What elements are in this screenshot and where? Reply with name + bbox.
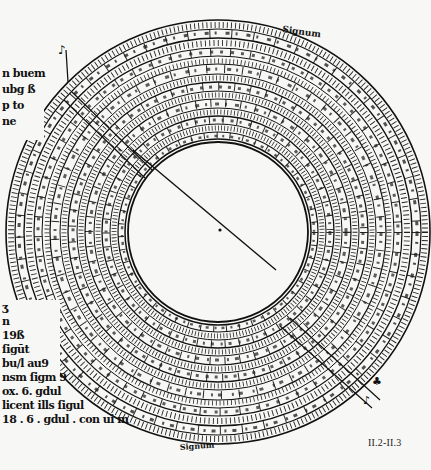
center-pivot [218, 228, 221, 231]
margin-line: licent ills ſigul [2, 400, 129, 411]
margin-line: bu/l au9 [2, 358, 129, 369]
margin-line: ne [2, 116, 45, 127]
margin-line: 18 . 6 . gdul . con ui m [2, 414, 129, 425]
margin-line: nsm ſigm 9 [2, 372, 129, 383]
svg-text:♣: ♣ [372, 375, 382, 388]
margin-line: p to [2, 100, 45, 111]
margin-line: ubg ß [2, 84, 45, 95]
svg-text:♪: ♪ [363, 394, 370, 407]
margin-line: n [2, 316, 129, 327]
document-page: ♪ ♣ ♪ Signum Signum n buem ubg ß p to ne… [0, 0, 431, 470]
margin-line: ſigūt [2, 344, 129, 355]
margin-line: ʒ [2, 302, 129, 313]
figure-caption: II.2-II.3 [368, 437, 401, 448]
margin-line: 19ß [2, 330, 129, 341]
margin-line: n buem [2, 68, 45, 79]
svg-text:♪: ♪ [58, 43, 66, 57]
svg-text:Signum: Signum [179, 440, 215, 452]
margin-text-top: n buem ubg ß p to ne [2, 68, 45, 127]
margin-text-bottom: ʒ n 19ß ſigūt bu/l au9 nsm ſigm 9 ox. 6.… [2, 302, 129, 425]
margin-line: ox. 6. gdul [2, 386, 129, 397]
